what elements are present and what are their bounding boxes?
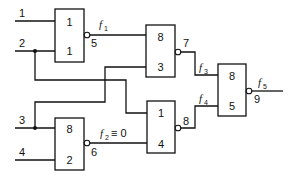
gate-4-bottom-label: 4	[158, 138, 164, 150]
signal-f1-label: f 1	[99, 18, 108, 32]
gate-1-top-label: 1	[66, 16, 72, 28]
gate-5-bottom-label: 5	[229, 100, 235, 112]
gate-4: 1 4 8	[147, 101, 189, 153]
gate-3-top-label: 8	[157, 31, 163, 43]
gate-4-top-label: 1	[158, 107, 164, 119]
svg-text:≡ 0: ≡ 0	[111, 127, 127, 139]
input-3-label: 3	[19, 114, 25, 126]
svg-text:5: 5	[263, 83, 267, 90]
input-2-branch-wire	[35, 51, 147, 113]
inverter-bubble	[175, 49, 181, 55]
gate-4-output-label: 8	[183, 115, 189, 127]
inverter-bubble	[246, 88, 252, 94]
gate-1-bottom-label: 1	[66, 45, 72, 57]
gate-5-output-label: 9	[254, 93, 260, 105]
inverter-bubble	[84, 140, 90, 146]
junction-input-2	[33, 49, 37, 53]
input-2-label: 2	[19, 37, 25, 49]
gate-2: 8 2 6	[55, 118, 97, 170]
signal-f3-label: f 3	[199, 61, 208, 75]
gate-2-bottom-label: 2	[66, 154, 72, 166]
gate-3: 8 3 7	[146, 25, 189, 77]
svg-text:3: 3	[204, 68, 208, 75]
signal-f5-label: f 5	[258, 76, 267, 90]
input-4-label: 4	[19, 146, 25, 158]
gate-2-output-label: 6	[91, 146, 97, 158]
gate-2-top-label: 8	[66, 123, 72, 135]
gate-5: 8 5 9	[218, 64, 260, 116]
inverter-bubble	[84, 32, 90, 38]
inverter-bubble	[175, 125, 181, 131]
svg-text:2: 2	[105, 134, 109, 141]
gate-3-bottom-label: 3	[157, 61, 163, 73]
svg-text:1: 1	[104, 25, 108, 32]
signal-f2-label: f 2 ≡ 0	[100, 127, 127, 141]
signal-f4-label: f 4	[199, 92, 208, 106]
gate-5-top-label: 8	[229, 70, 235, 82]
input-3-branch-wire	[35, 67, 146, 128]
gate-3-output-label: 7	[183, 37, 189, 49]
input-1-label: 1	[19, 7, 25, 19]
junction-input-3	[33, 126, 37, 130]
logic-circuit-diagram: 1 1 5 8 2 6 8 3 7 1 4 8 8 5 9 1 2 3 4	[0, 0, 298, 178]
gate-1-output-label: 5	[91, 37, 97, 49]
svg-text:4: 4	[204, 99, 208, 106]
